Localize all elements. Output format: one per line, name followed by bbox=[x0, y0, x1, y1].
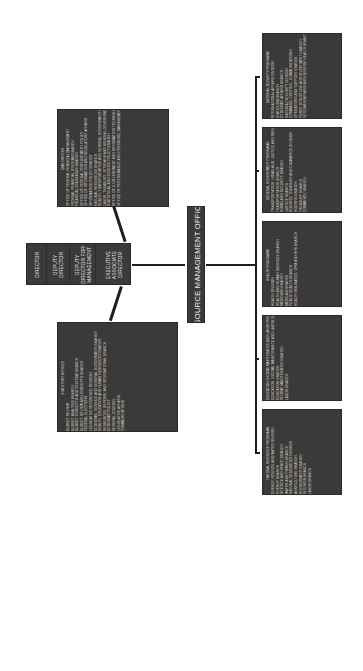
executive-associate-director-row: EXECUTIVE ASSOCIATE DIRECTOR bbox=[95, 244, 131, 285]
director-row: DIRECTOR bbox=[27, 244, 46, 285]
connector-director-to-lower bbox=[109, 286, 123, 321]
program-box: NATURAL RESOURCE PROGRAMSENERGY, SCIENCE… bbox=[262, 409, 342, 495]
connector-director-to-center bbox=[132, 264, 185, 266]
bus-tick bbox=[255, 358, 259, 360]
lower-box-line: COMMUNICATIONS bbox=[121, 325, 126, 431]
program-box-line: VETERANS AFFAIRS AND DEFENSE HEALTH BRAN… bbox=[303, 36, 308, 118]
program-box-line: LABOR BRANCH bbox=[285, 318, 290, 400]
program-box-line: COMMERCE BRANCH bbox=[303, 130, 308, 212]
program-box: EDUCATION, INCOME MAINTENANCE AND LABOR … bbox=[262, 315, 342, 401]
deputy-director-management-row: DEPUTY DIRECTOR FOR MANAGEMENT bbox=[69, 244, 95, 285]
program-box: NATIONAL SECURITY PROGRAMSINTERNATIONAL … bbox=[262, 33, 342, 119]
center-box-title: RESOURCE MANAGEMENT OFFICES bbox=[193, 206, 202, 323]
omb-offices-box: OMB OFFICES OFFICE OF FEDERAL FINANCIAL … bbox=[57, 109, 169, 207]
bus-cap-top bbox=[255, 76, 260, 78]
director-box: DIRECTOR DEPUTY DIRECTOR DEPUTY DIRECTOR… bbox=[26, 243, 131, 285]
program-box: GENERAL GOVERNMENT PROGRAMSTRANSPORTATIO… bbox=[262, 127, 342, 213]
program-box: HEALTH PROGRAMSHEALTH DIVISIONHEALTH AND… bbox=[262, 221, 342, 307]
program-box-line: LANDS BRANCH bbox=[308, 412, 313, 494]
bus-cap-bottom bbox=[255, 452, 260, 454]
connector-director-to-upper bbox=[112, 205, 126, 242]
statutory-offices-box: STATUTORY OFFICES BUDGET REVIEWBUDGET AN… bbox=[57, 322, 178, 432]
program-bus-line bbox=[255, 76, 257, 453]
deputy-director-row: DEPUTY DIRECTOR bbox=[46, 244, 68, 285]
resource-management-offices-box: RESOURCE MANAGEMENT OFFICES bbox=[187, 206, 205, 323]
upper-box-line: OFFICE OF PERFORMANCE AND PERSONNEL MANA… bbox=[117, 112, 122, 206]
program-box-line: HEALTH INSURANCE, OPM AND HHS BRANCH bbox=[294, 224, 299, 306]
bus-tick bbox=[255, 170, 259, 172]
connector-center-to-bus bbox=[206, 264, 256, 266]
